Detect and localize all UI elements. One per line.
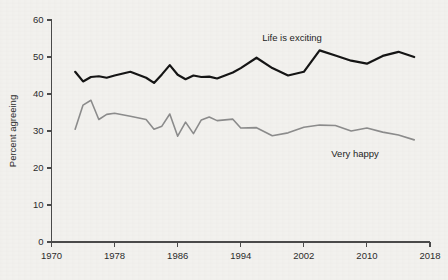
- x-tick-label: 1986: [167, 250, 188, 261]
- chart-axes: 0102030405060197019781986199420022010201…: [7, 14, 441, 261]
- x-tick-label: 1978: [104, 250, 125, 261]
- series-annotation-very-happy: Very happy: [331, 148, 379, 159]
- series-line-life-is-exciting: [75, 50, 414, 83]
- y-tick-label: 40: [33, 88, 44, 99]
- chart-series: [75, 50, 414, 140]
- y-tick-label: 60: [33, 14, 44, 25]
- y-tick-label: 20: [33, 162, 44, 173]
- y-tick-label: 0: [38, 236, 43, 247]
- y-axis-title: Percent agreeing: [7, 95, 18, 167]
- x-tick-label: 2010: [356, 250, 377, 261]
- x-tick-label: 1970: [41, 250, 62, 261]
- series-line-very-happy: [75, 100, 414, 140]
- y-tick-label: 30: [33, 125, 44, 136]
- line-chart: 0102030405060197019781986199420022010201…: [0, 0, 448, 280]
- y-tick-label: 10: [33, 199, 44, 210]
- y-tick-label: 50: [33, 51, 44, 62]
- x-tick-label: 2002: [293, 250, 314, 261]
- series-annotation-life-is-exciting: Life is exciting: [262, 32, 322, 43]
- x-tick-label: 1994: [230, 250, 251, 261]
- x-tick-label: 2018: [419, 250, 440, 261]
- chart-figure: 0102030405060197019781986199420022010201…: [0, 0, 448, 280]
